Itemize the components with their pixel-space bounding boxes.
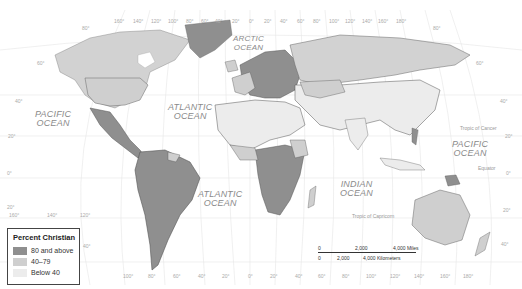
legend-swatch-high <box>13 247 27 255</box>
tick-right-1: 60° <box>476 60 484 66</box>
tick-bottom-5: 0° <box>248 273 253 279</box>
tick-top-11: 60° <box>297 18 305 24</box>
tick-top-17: 180° <box>396 18 406 24</box>
legend-label: 40–79 <box>31 258 50 265</box>
tick-bottom-2: 60° <box>173 273 181 279</box>
tick-top-14: 120° <box>345 18 355 24</box>
tick-bottom-11: 120° <box>390 273 400 279</box>
tick-top-6: 40° <box>215 18 223 24</box>
tick-bottom-7: 40° <box>295 273 303 279</box>
legend-item-mid: 40–79 <box>13 256 79 267</box>
country-philippines <box>412 128 418 145</box>
tick-left-bottom-1: 140° <box>47 212 57 218</box>
tick-left-6: 40° <box>83 243 91 249</box>
scale-miles-2: 4,000 Miles <box>393 245 419 251</box>
label-tropic-of-capricorn: Tropic of Capricorn <box>352 213 394 219</box>
tick-left-1: 60° <box>37 60 45 66</box>
ocean-line2: OCEAN <box>340 189 373 198</box>
legend-item-low: Below 40 <box>13 267 79 278</box>
tick-left-2: 40° <box>15 98 23 104</box>
tick-top-9: 20° <box>264 18 272 24</box>
legend-label: Below 40 <box>31 269 60 276</box>
landmass-indonesia <box>380 158 425 170</box>
scale-line <box>318 252 416 253</box>
tick-top-7: 20° <box>232 18 240 24</box>
tick-top-12: 80° <box>313 18 321 24</box>
country-usa <box>85 78 148 106</box>
label-indian-ocean: INDIAN OCEAN <box>340 180 373 198</box>
legend-swatch-low <box>13 269 27 277</box>
label-atlantic-ocean-north: ATLANTIC OCEAN <box>168 103 212 121</box>
tick-bottom-6: 20° <box>270 273 278 279</box>
tick-top-16: 160° <box>378 18 388 24</box>
tick-bottom-3: 40° <box>198 273 206 279</box>
tick-top-13: 100° <box>329 18 339 24</box>
ocean-line2: OCEAN <box>198 199 242 208</box>
tick-bottom-12: 140° <box>414 273 424 279</box>
landmass-south-america <box>135 150 200 270</box>
ocean-line2: OCEAN <box>168 112 212 121</box>
tick-bottom-8: 60° <box>318 273 326 279</box>
country-madagascar <box>308 186 316 208</box>
tick-top-0: 160° <box>114 18 124 24</box>
tick-top-8: 0° <box>249 18 254 24</box>
tick-bottom-0: 100° <box>123 273 133 279</box>
legend-swatch-mid <box>13 258 27 266</box>
tick-right-0: 80° <box>433 25 441 31</box>
label-tropic-of-cancer: Tropic of Cancer <box>460 125 497 131</box>
ocean-line2: OCEAN <box>35 119 71 128</box>
country-new-zealand <box>475 232 490 256</box>
label-pacific-ocean-east: PACIFIC OCEAN <box>452 140 488 158</box>
country-iceland-uk <box>225 60 238 72</box>
label-arctic-ocean: ARCTIC OCEAN <box>233 34 264 52</box>
tick-left-0: 80° <box>82 25 90 31</box>
country-papua-new-guinea <box>445 175 460 186</box>
ocean-line2: OCEAN <box>233 43 264 52</box>
tick-left-4: 0° <box>7 170 12 176</box>
tick-right-2: 40° <box>500 98 508 104</box>
scale-bar: 0 2,000 4,000 Miles 0 2,000 4,000 Kilome… <box>315 245 425 265</box>
tick-top-4: 80° <box>186 18 194 24</box>
label-equator: Equator <box>478 165 496 171</box>
tick-left-5: 20° <box>7 204 15 210</box>
country-india <box>345 118 368 150</box>
ocean-line1: ARCTIC <box>233 34 264 43</box>
tick-top-1: 140° <box>133 18 143 24</box>
tick-right-4: 0° <box>506 170 511 176</box>
tick-top-3: 100° <box>168 18 178 24</box>
tick-top-2: 120° <box>151 18 161 24</box>
tick-right-3: 20° <box>505 133 513 139</box>
ocean-line2: OCEAN <box>452 149 488 158</box>
country-australia <box>412 190 470 245</box>
scale-km-2: 4,000 Kilometers <box>363 255 401 261</box>
tick-left-bottom-2: 120° <box>80 212 90 218</box>
legend: Percent Christian 80 and above 40–79 Bel… <box>7 228 80 285</box>
tick-top-5: 60° <box>201 18 209 24</box>
tick-right-6: 40° <box>501 241 509 247</box>
tick-left-bottom-0: 160° <box>9 212 19 218</box>
tick-bottom-14: 180° <box>463 273 473 279</box>
tick-bottom-10: 100° <box>366 273 376 279</box>
tick-bottom-4: 20° <box>222 273 230 279</box>
tick-left-3: 20° <box>8 133 16 139</box>
label-atlantic-ocean-south: ATLANTIC OCEAN <box>198 190 242 208</box>
legend-label: 80 and above <box>31 247 73 254</box>
tick-top-15: 140° <box>362 18 372 24</box>
scale-km-1: 2,000 <box>337 255 350 261</box>
tick-right-5: 20° <box>503 207 511 213</box>
tick-top-10: 40° <box>280 18 288 24</box>
scale-miles-1: 2,000 <box>355 245 368 251</box>
legend-item-high: 80 and above <box>13 245 79 256</box>
scale-miles-0: 0 <box>318 245 321 251</box>
tick-bottom-1: 80° <box>148 273 156 279</box>
label-pacific-ocean-west: PACIFIC OCEAN <box>35 110 71 128</box>
scale-km-0: 0 <box>318 255 321 261</box>
tick-bottom-9: 80° <box>342 273 350 279</box>
legend-title: Percent Christian <box>13 233 79 242</box>
country-mexico-central-america <box>90 108 145 158</box>
tick-bottom-13: 160° <box>440 273 450 279</box>
